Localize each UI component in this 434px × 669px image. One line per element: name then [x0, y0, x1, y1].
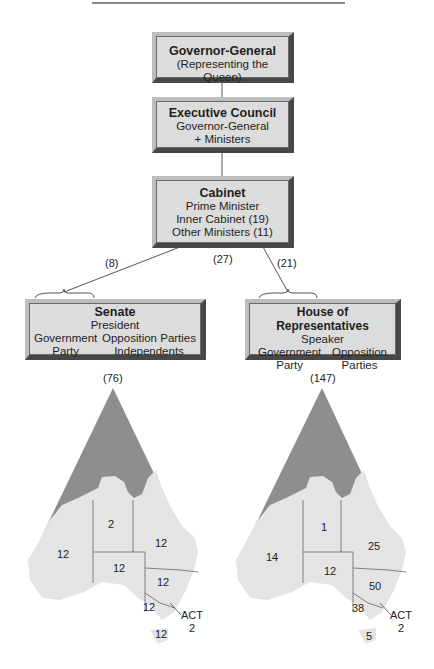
senate-government-col: Government Party: [34, 332, 97, 358]
house-vic-seats: 38: [352, 602, 364, 614]
house-ministers-label: (21): [277, 257, 297, 269]
house-box: House of Representatives Speaker Governm…: [245, 299, 401, 360]
senate-opp-line-2: Independents: [102, 345, 196, 358]
total-ministers-label: (27): [213, 253, 233, 265]
house-wa-seats: 14: [266, 551, 278, 563]
senate-total: (76): [103, 372, 123, 384]
senate-gov-line-1: Government: [34, 332, 97, 345]
house-gov-line-1: Government: [258, 346, 321, 359]
cabinet-line-3: Other Ministers (11): [157, 226, 288, 239]
house-act-seats: 2: [390, 622, 412, 635]
cabinet-line-1: Prime Minister: [157, 200, 288, 213]
executive-council-box: Executive Council Governor-General + Min…: [152, 97, 294, 153]
senate-presiding-officer: President: [30, 319, 200, 332]
house-opposition-col: Opposition Parties: [332, 346, 387, 372]
executive-council-title: Executive Council: [157, 106, 288, 120]
house-opp-line-2: Parties: [332, 359, 387, 372]
senate-title: Senate: [30, 305, 200, 319]
senate-opposition-col: Opposition Parties Independents: [102, 332, 196, 358]
house-brace: [259, 289, 317, 298]
senate-vic-seats: 12: [143, 601, 155, 613]
senate-nt-seats: 2: [108, 518, 114, 530]
senate-act-label: ACT 2: [181, 609, 203, 635]
cabinet-line-2: Inner Cabinet (19): [157, 213, 288, 226]
senate-act-name: ACT: [181, 609, 203, 622]
house-tas-seats: 5: [366, 630, 372, 642]
cabinet-box: Cabinet Prime Minister Inner Cabinet (19…: [152, 176, 294, 248]
house-act-name: ACT: [390, 609, 412, 622]
senate-ministers-label: (8): [105, 257, 118, 269]
house-gov-line-2: Party: [258, 359, 321, 372]
executive-council-line-1: Governor-General: [157, 120, 288, 133]
senate-brace: [35, 289, 94, 298]
senate-tas-seats: 12: [155, 628, 167, 640]
house-government-col: Government Party: [258, 346, 321, 372]
house-presiding-officer: Speaker: [250, 333, 395, 346]
house-total: (147): [310, 372, 336, 384]
senate-opp-line-1: Opposition Parties: [102, 332, 196, 345]
senate-wa-seats: 12: [57, 548, 69, 560]
senate-qld-seats: 12: [155, 537, 167, 549]
senate-nsw-seats: 12: [157, 576, 169, 588]
house-title: House of Representatives: [250, 305, 395, 333]
house-opp-line-1: Opposition: [332, 346, 387, 359]
executive-council-line-2: + Ministers: [157, 133, 288, 146]
senate-act-seats: 2: [181, 622, 203, 635]
house-sa-seats: 12: [324, 565, 336, 577]
cabinet-title: Cabinet: [157, 186, 288, 200]
house-nt-seats: 1: [321, 521, 327, 533]
senate-box: Senate President Government Party Opposi…: [25, 299, 206, 360]
senate-gov-line-2: Party: [34, 345, 97, 358]
connector-cabinet-house: [263, 247, 288, 292]
house-map: [236, 388, 406, 644]
house-act-label: ACT 2: [390, 609, 412, 635]
governor-general-box: Governor-General (Representing the Queen…: [152, 32, 294, 83]
house-nsw-seats: 50: [369, 580, 381, 592]
connector-cabinet-senate: [64, 247, 180, 292]
senate-sa-seats: 12: [113, 562, 125, 574]
governor-general-title: Governor-General: [157, 44, 288, 58]
governor-general-subtitle: (Representing the Queen): [157, 58, 288, 84]
house-qld-seats: 25: [368, 540, 380, 552]
